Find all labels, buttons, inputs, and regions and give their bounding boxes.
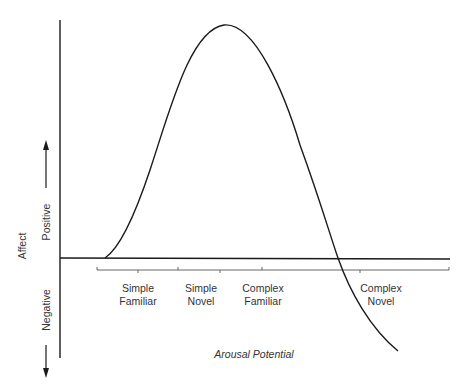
arousal-affect-diagram: Positive Affect Negative Simple Familiar…: [0, 0, 464, 387]
negative-label: Negative: [40, 289, 52, 331]
positive-arrow-icon: [43, 140, 49, 188]
category-1-line2: Familiar: [119, 295, 157, 307]
category-1-line1: Simple: [122, 282, 154, 294]
x-axis-label: Arousal Potential: [213, 348, 294, 360]
positive-label: Positive: [40, 203, 52, 240]
category-3-line2: Familiar: [244, 295, 282, 307]
affect-label: Affect: [16, 233, 28, 260]
category-2-line1: Simple: [185, 282, 217, 294]
category-bracket: [97, 267, 449, 273]
negative-arrow-icon: [43, 345, 49, 378]
category-4-line2: Novel: [368, 295, 395, 307]
category-2-line2: Novel: [188, 295, 215, 307]
category-3-line1: Complex: [242, 282, 284, 294]
category-4-line1: Complex: [360, 282, 402, 294]
x-axis-line: [60, 258, 450, 259]
